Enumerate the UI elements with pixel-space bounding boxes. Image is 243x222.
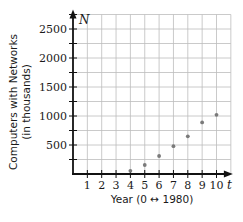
data-point (215, 113, 219, 117)
y-tick-label: 1000 (39, 110, 67, 123)
axes (69, 10, 233, 179)
y-tick-label: 1500 (39, 81, 67, 94)
x-tick-label: 6 (156, 179, 163, 192)
x-tick-label: 2 (98, 179, 105, 192)
scatter-chart: 500100015002000250012345678910 N t Year … (0, 0, 243, 222)
x-tick-label: 1 (84, 179, 91, 192)
y-axis-title-line2: (in thousands) (20, 64, 32, 140)
x-tick-label: 9 (199, 179, 206, 192)
y-tick-label: 2500 (39, 23, 67, 36)
x-axis-variable: t (227, 178, 232, 192)
y-axis-title-line1: Computers with Networks (7, 34, 19, 170)
y-tick-label: 500 (46, 139, 67, 152)
x-tick-label: 5 (141, 179, 148, 192)
x-tick-label: 7 (170, 179, 177, 192)
x-tick-label: 4 (127, 179, 134, 192)
x-tick-label: 8 (184, 179, 191, 192)
data-point (186, 134, 190, 138)
x-tick-label: 3 (113, 179, 120, 192)
x-axis-arrow-icon (224, 171, 233, 178)
data-point (200, 120, 204, 124)
x-tick-label: 10 (210, 179, 224, 192)
data-point (172, 144, 176, 148)
x-axis-title: Year (0 ↔ 1980) (110, 193, 194, 205)
tick-labels: 500100015002000250012345678910 (39, 23, 224, 192)
data-point (157, 154, 161, 158)
grid-lines (73, 15, 231, 175)
y-tick-label: 2000 (39, 52, 67, 65)
data-point (143, 163, 147, 167)
y-axis-variable: N (78, 13, 90, 27)
data-point (129, 169, 133, 173)
